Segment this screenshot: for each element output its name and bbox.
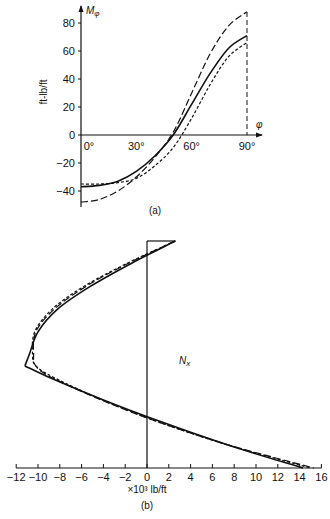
- chart-a-moment: 806040200−20−400°30°60°90° Mφ ft-lb/ft φ…: [38, 5, 263, 216]
- chart-a-series-short-dash: [81, 43, 247, 184]
- chart-b-axes: [16, 241, 321, 468]
- chart-a-x-symbol: φ: [256, 119, 263, 130]
- svg-text:0: 0: [69, 129, 75, 141]
- svg-text:14: 14: [293, 471, 305, 483]
- chart-b-ticks: −12−10−8−6−4−20246810121416: [7, 464, 328, 483]
- chart-b-nx-label: Nx: [179, 355, 191, 368]
- svg-text:12: 12: [272, 471, 284, 483]
- chart-a-series-long-dash: [81, 12, 247, 202]
- svg-text:−10: −10: [29, 471, 48, 483]
- svg-text:60°: 60°: [183, 140, 200, 152]
- svg-text:4: 4: [188, 471, 194, 483]
- chart-a-curves: [81, 12, 247, 202]
- chart-a-series-solid: [81, 36, 247, 187]
- svg-text:90°: 90°: [239, 140, 256, 152]
- svg-text:40: 40: [63, 73, 75, 85]
- svg-text:2: 2: [166, 471, 172, 483]
- svg-text:16: 16: [315, 471, 327, 483]
- chart-a-ticks: 806040200−20−400°30°60°90°: [56, 17, 255, 197]
- figure: 806040200−20−400°30°60°90° Mφ ft-lb/ft φ…: [0, 0, 330, 519]
- svg-text:0: 0: [144, 471, 150, 483]
- chart-b-nx: −12−10−8−6−4−20246810121416 Nx ×10³ lb/f…: [7, 241, 328, 511]
- svg-text:60: 60: [63, 45, 75, 57]
- svg-text:10: 10: [250, 471, 262, 483]
- chart-b-series-short-dash: [32, 241, 310, 468]
- svg-text:6: 6: [209, 471, 215, 483]
- svg-text:−2: −2: [119, 471, 132, 483]
- chart-a-axes: [79, 5, 264, 207]
- chart-a-y-label: ft-lb/ft: [38, 79, 49, 104]
- svg-text:20: 20: [63, 101, 75, 113]
- chart-b-caption: (b): [141, 500, 153, 511]
- chart-b-x-label: ×10³ lb/ft: [127, 484, 166, 495]
- svg-text:8: 8: [231, 471, 237, 483]
- svg-text:0°: 0°: [84, 140, 95, 152]
- chart-a-y-symbol: Mφ: [86, 5, 100, 18]
- svg-text:−8: −8: [54, 471, 67, 483]
- chart-b-series-long-dash: [33, 241, 313, 468]
- svg-text:−12: −12: [7, 471, 26, 483]
- svg-text:−4: −4: [97, 471, 110, 483]
- svg-text:−40: −40: [56, 185, 75, 197]
- chart-b-curves: [25, 241, 314, 468]
- chart-a-caption: (a): [149, 205, 161, 216]
- svg-text:−20: −20: [56, 157, 75, 169]
- svg-text:80: 80: [63, 17, 75, 29]
- svg-text:−6: −6: [75, 471, 88, 483]
- svg-text:30°: 30°: [128, 140, 145, 152]
- chart-b-series-solid: [25, 241, 303, 468]
